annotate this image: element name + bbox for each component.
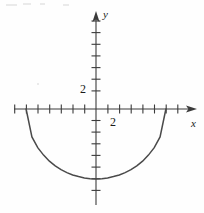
graph-figure: y x 2 2 — [0, 0, 204, 213]
scan-speck — [40, 3, 45, 5]
scan-speck — [63, 4, 69, 6]
y-axis-label: y — [103, 9, 108, 20]
coordinate-plane — [0, 0, 204, 213]
y-axis-tick-label-2: 2 — [80, 83, 86, 95]
scan-speck — [37, 83, 39, 85]
x-axis-label: x — [191, 118, 196, 129]
scan-speck — [6, 4, 17, 6]
x-axis-tick-label-2: 2 — [110, 116, 116, 128]
scan-speck — [23, 3, 31, 5]
